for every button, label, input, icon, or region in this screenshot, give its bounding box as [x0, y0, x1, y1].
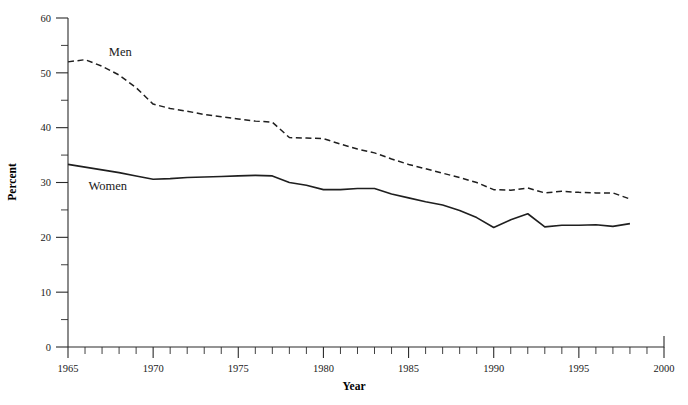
y-tick-label: 60 [41, 13, 52, 24]
series-annotation-women: Women [88, 179, 127, 193]
line-chart: 0102030405060 19651970197519801985199019… [0, 0, 688, 405]
x-axis-line [68, 336, 664, 347]
y-tick-label: 40 [41, 122, 52, 133]
y-axis-title: Percent [6, 163, 18, 201]
series-line-men [68, 60, 630, 199]
series-line-women [68, 164, 630, 227]
series-annotation-men: Men [109, 45, 133, 59]
x-tick-label: 1980 [313, 363, 334, 374]
y-tick-label: 20 [41, 232, 52, 243]
x-axis-minor-ticks [85, 347, 647, 354]
x-tick-label: 2000 [654, 363, 675, 374]
chart-canvas: 0102030405060 19651970197519801985199019… [0, 0, 688, 405]
x-tick-label: 1970 [143, 363, 164, 374]
x-axis-tick-labels: 19651970197519801985199019952000 [58, 363, 675, 374]
x-axis-title: Year [343, 380, 366, 392]
x-tick-label: 1995 [568, 363, 589, 374]
y-tick-label: 10 [41, 287, 52, 298]
data-series-group [68, 60, 630, 228]
y-tick-label: 50 [41, 68, 52, 79]
y-tick-label: 30 [41, 177, 52, 188]
x-tick-label: 1975 [228, 363, 249, 374]
y-axis-major-ticks [56, 18, 68, 347]
x-tick-label: 1990 [483, 363, 504, 374]
y-tick-label: 0 [46, 342, 51, 353]
x-tick-label: 1985 [398, 363, 419, 374]
x-tick-label: 1965 [58, 363, 79, 374]
y-axis-tick-labels: 0102030405060 [41, 13, 52, 353]
x-axis-major-ticks [68, 347, 664, 358]
